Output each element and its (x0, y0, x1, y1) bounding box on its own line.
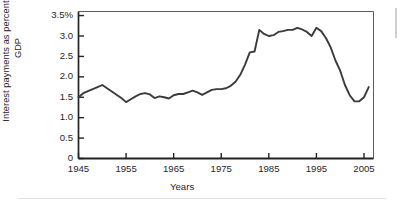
x-axis-tick-label: 2005 (342, 163, 386, 174)
x-axis-title: Years (170, 181, 290, 192)
x-axis-tick-label: 1985 (247, 163, 291, 174)
plot-frame (79, 12, 374, 159)
x-axis-tick-label: 1995 (294, 163, 338, 174)
y-axis-tick-label: 3.0 (60, 30, 73, 41)
y-axis-tick-label: 0 (68, 152, 73, 163)
y-axis-tick-labels: 00.51.01.52.02.53.03.5% (26, 0, 73, 170)
x-axis-tick-label: 1945 (57, 163, 101, 174)
x-axis-tick-label: 1975 (199, 163, 243, 174)
chart-figure: 00.51.01.52.02.53.03.5% Interest payment… (0, 0, 402, 205)
y-axis-tick-label: 2.0 (60, 70, 73, 81)
y-axis-tick-label: 3.5% (51, 9, 73, 20)
y-axis-tick-label: 2.5 (60, 50, 73, 61)
y-axis-tick-label: 1.5 (60, 91, 73, 102)
axis-ticks (79, 16, 364, 159)
y-axis-tick-label: 1.0 (60, 111, 73, 122)
page-rule-artifact (18, 198, 386, 199)
x-axis-tick-label: 1955 (104, 163, 148, 174)
x-axis-tick-label: 1965 (152, 163, 196, 174)
y-axis-title: Interest payments as percentage of GDP (1, 0, 29, 123)
data-series-line (79, 28, 369, 102)
y-axis-tick-label: 0.5 (60, 132, 73, 143)
x-axis-tick-labels: 1945195519651975198519952005 (0, 163, 402, 183)
page-edge-artifact (395, 8, 397, 38)
